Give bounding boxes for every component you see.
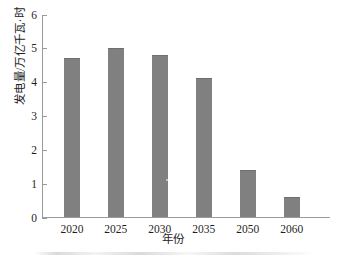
x-axis-line [42,217,330,218]
bar [284,197,300,217]
y-tick-label: 2 [13,142,37,158]
y-tick-label: 0 [13,210,37,226]
y-tick: 5 [42,48,47,49]
y-tick: 2 [42,150,47,151]
scan-artifact [34,252,314,255]
bar [240,170,256,217]
bar [108,48,124,217]
y-tick-label: 4 [13,74,37,90]
plot-area: 0123456 202020252030203520502060 [42,15,330,218]
scan-speck [166,179,168,181]
y-tick: 3 [42,116,47,117]
y-tick: 1 [42,184,47,185]
bar-chart-figure: 发电量/万亿千瓦·时 0123456 202020252030203520502… [0,0,346,259]
y-tick: 4 [42,82,47,83]
y-tick-label: 3 [13,108,37,124]
bar [64,58,80,217]
bar [152,55,168,217]
y-tick: 0 [42,218,47,219]
y-tick-label: 6 [13,7,37,23]
y-tick-label: 1 [13,176,37,192]
bar [196,78,212,217]
x-axis-title: 年份 [0,230,346,246]
y-tick: 6 [42,15,47,16]
y-tick-label: 5 [13,40,37,56]
